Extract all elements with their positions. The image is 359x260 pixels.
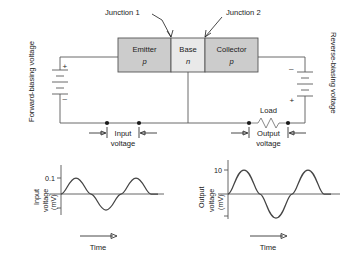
wire-right-battery-to-collector	[258, 57, 305, 66]
load-resistor-symbol	[249, 118, 288, 128]
wire-left-battery-to-bottom	[60, 103, 107, 123]
input-voltage-dimension: Input voltage	[89, 127, 157, 148]
reverse-biasing-voltage-label: Reverse-biasing voltage	[329, 32, 338, 113]
junction-2-leader-line	[205, 17, 222, 37]
input-chart-xlabel: Time	[90, 243, 107, 252]
battery-right-plus-sign: +	[290, 96, 295, 105]
input-chart-ylabel-line1: Input	[32, 189, 41, 205]
junction-1-label: Junction 1	[105, 8, 140, 17]
collector-doping-label: p	[228, 57, 233, 66]
base-label: Base	[179, 45, 196, 54]
output-chart-ylabel-line3: (mV)	[216, 194, 225, 210]
junction-2-label: Junction 2	[226, 8, 261, 17]
output-chart-ytick-label: 10	[214, 166, 222, 175]
battery-right-minus-sign: –	[289, 64, 294, 73]
output-chart-xlabel: Time	[260, 243, 277, 252]
input-chart-ytick-label: 0.1	[45, 174, 55, 183]
output-waveform-chart: 10 Output voltage (mV) Time	[197, 160, 340, 252]
emitter-region	[118, 38, 171, 72]
output-terminal-right-dot	[286, 121, 290, 125]
forward-bias-battery: + –	[52, 62, 68, 103]
junction-callouts: Junction 1 Junction 2	[105, 8, 261, 37]
emitter-doping-label: p	[141, 57, 146, 66]
battery-left-minus-sign: –	[63, 94, 68, 103]
input-voltage-label-line2: voltage	[111, 139, 136, 148]
forward-biasing-voltage-label: Forward-biasing voltage	[27, 41, 36, 122]
input-voltage-label-line1: Input	[115, 129, 133, 138]
junction-1-leader-line	[152, 14, 171, 37]
input-terminal-right-dot	[137, 121, 141, 125]
output-voltage-label-line2: voltage	[256, 139, 281, 148]
emitter-label: Emitter	[132, 45, 157, 54]
output-voltage-dimension: Output voltage	[231, 127, 306, 148]
output-chart-ylabel-line1: Output	[197, 186, 206, 208]
input-terminal-left-dot	[105, 121, 109, 125]
collector-region	[205, 38, 258, 72]
base-doping-label: n	[186, 57, 190, 66]
load-label: Load	[260, 106, 277, 115]
wire-output-to-right-battery	[288, 107, 305, 123]
output-voltage-label-line1: Output	[257, 129, 281, 138]
base-region	[171, 38, 205, 72]
reverse-bias-battery: – +	[289, 64, 313, 107]
wire-emitter-to-left-battery	[60, 57, 118, 63]
collector-label: Collector	[217, 45, 247, 54]
output-chart-ylabel-line2: voltage	[207, 189, 216, 212]
output-terminal-left-dot	[247, 121, 251, 125]
input-chart-ylabel-line3: (mV)	[49, 194, 58, 210]
transistor-amplifier-figure: + – – + Emitter p Base n Collector p	[0, 0, 359, 260]
battery-left-plus-sign: +	[63, 62, 68, 71]
transistor-block: Emitter p Base n Collector p	[118, 38, 258, 72]
input-waveform-chart: 0.1 Input voltage (mV) Time	[32, 165, 164, 252]
